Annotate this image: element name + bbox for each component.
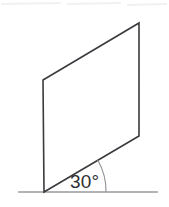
geometry-figure: 30° (0, 0, 169, 207)
parallelogram-face (43, 23, 139, 192)
scan-artifact (2, 3, 166, 5)
angle-label: 30° (70, 171, 99, 192)
geometry-canvas: 30° (0, 0, 169, 207)
